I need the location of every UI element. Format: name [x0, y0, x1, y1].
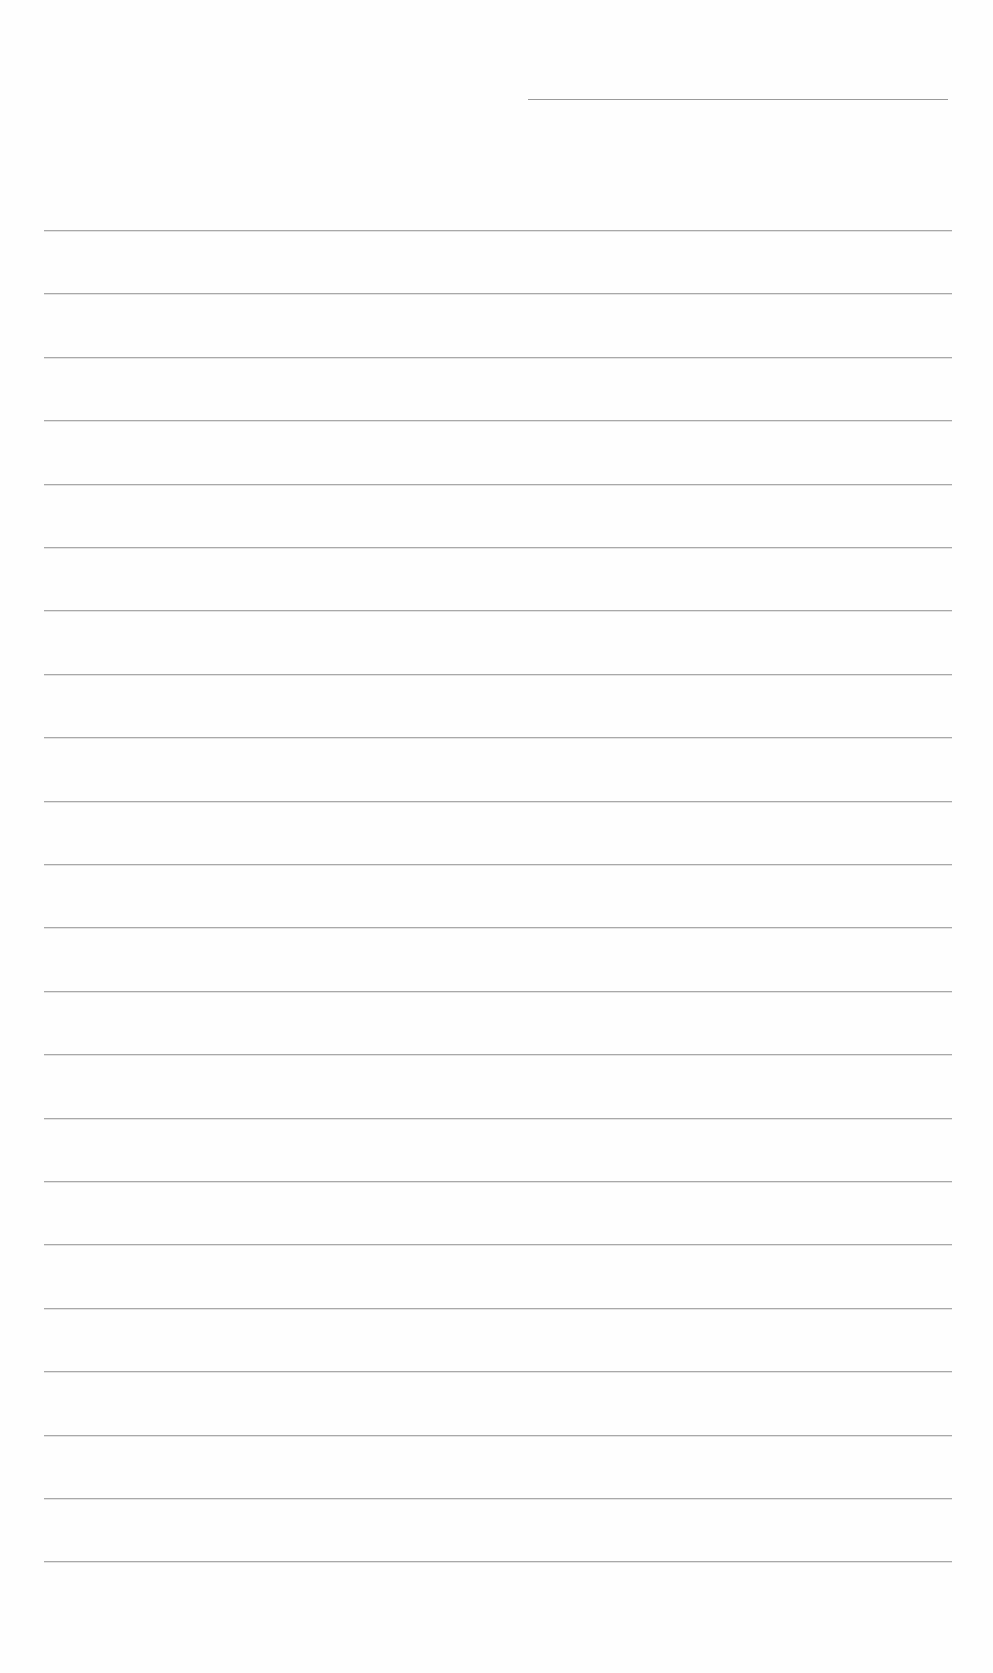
ruled-line: [44, 991, 952, 992]
ruled-line: [44, 293, 952, 294]
ruled-line: [44, 927, 952, 928]
ruled-line: [44, 547, 952, 548]
ruled-line: [44, 1371, 952, 1372]
ruled-line: [44, 1308, 952, 1309]
ruled-paper-page: [0, 0, 993, 1673]
ruled-line: [44, 801, 952, 802]
ruled-line: [44, 484, 952, 485]
ruled-line: [44, 610, 952, 611]
ruled-line: [44, 864, 952, 865]
header-date-line: [528, 99, 948, 100]
ruled-line: [44, 1181, 952, 1182]
ruled-line: [44, 1054, 952, 1055]
ruled-line: [44, 674, 952, 675]
ruled-line: [44, 1561, 952, 1562]
ruled-line: [44, 230, 952, 231]
ruled-line: [44, 420, 952, 421]
ruled-line: [44, 357, 952, 358]
ruled-line: [44, 1435, 952, 1436]
ruled-line: [44, 1244, 952, 1245]
ruled-line: [44, 1118, 952, 1119]
ruled-line: [44, 1498, 952, 1499]
ruled-line: [44, 737, 952, 738]
